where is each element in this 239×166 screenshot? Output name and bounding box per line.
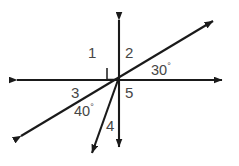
label-measure-40: 40° [74,103,94,119]
label-angle-4: 4 [106,118,114,133]
measure-40-value: 40 [74,103,90,119]
label-angle-1: 1 [88,45,96,60]
measure-30-value: 30 [151,62,167,78]
label-angle-5: 5 [125,85,133,100]
angle-diagram-figure: 1 2 3 4 5 30° 40° [0,0,239,166]
diagonal-line [21,21,213,136]
label-angle-2: 2 [125,45,133,60]
label-angle-3: 3 [71,85,79,100]
degree-symbol-icon: ° [90,102,94,112]
degree-symbol-icon: ° [167,61,171,71]
label-measure-30: 30° [151,62,171,78]
diagram-canvas [0,0,239,166]
